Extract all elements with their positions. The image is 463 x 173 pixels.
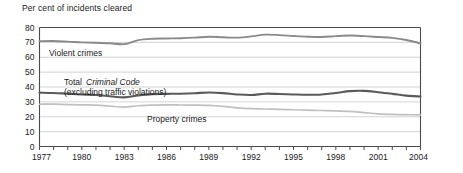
series-line: Property crimes: [40, 104, 421, 115]
total-criminal-code-label-line1-italic: Criminal Code: [86, 77, 140, 87]
x-axis-labels: 1977198019831986198919921995199820012004: [32, 152, 428, 162]
total-criminal-code-label-line2: (excluding traffic violations): [64, 87, 167, 97]
property-crimes-label: Property crimes: [147, 114, 207, 124]
line-chart-plot: 01020304050607080 1977198019831986198919…: [0, 0, 463, 173]
y-axis-tick-label: 80: [25, 23, 35, 33]
data-series: Violent crimesTotal Criminal Code (exclu…: [40, 35, 421, 115]
x-axis-tick-label: 1989: [199, 152, 218, 162]
y-axis-tick-label: 10: [25, 127, 35, 137]
total-criminal-code-label-line1-prefix: Total: [64, 77, 82, 87]
x-axis-tick-label: 1980: [72, 152, 91, 162]
y-axis-tick-label: 0: [30, 142, 35, 152]
y-axis-tick-label: 60: [25, 52, 35, 62]
series-annotations: Violent crimesTotal Criminal Code(exclud…: [49, 48, 207, 124]
violent-crimes-label: Violent crimes: [49, 48, 102, 58]
x-axis-tick-label: 2001: [369, 152, 388, 162]
series-line: Violent crimes: [40, 35, 421, 45]
y-axis-tick-label: 20: [25, 112, 35, 122]
chart-figure: Per cent of incidents cleared 0102030405…: [0, 0, 463, 173]
y-axis-tick-label: 30: [25, 97, 35, 107]
x-axis-tick-label: 1998: [326, 152, 345, 162]
y-axis-tick-label: 40: [25, 82, 35, 92]
x-axis-tick-label: 1992: [242, 152, 261, 162]
x-axis-tick-label: 1995: [284, 152, 303, 162]
x-axis-tick-label: 1983: [115, 152, 134, 162]
y-axis-tick-label: 70: [25, 37, 35, 47]
x-axis-tick-label: 1986: [157, 152, 176, 162]
x-axis-tick-label: 1977: [32, 152, 51, 162]
y-axis-tick-label: 50: [25, 67, 35, 77]
y-axis-labels: 01020304050607080: [25, 23, 35, 152]
x-axis-tick-label: 2004: [409, 152, 428, 162]
